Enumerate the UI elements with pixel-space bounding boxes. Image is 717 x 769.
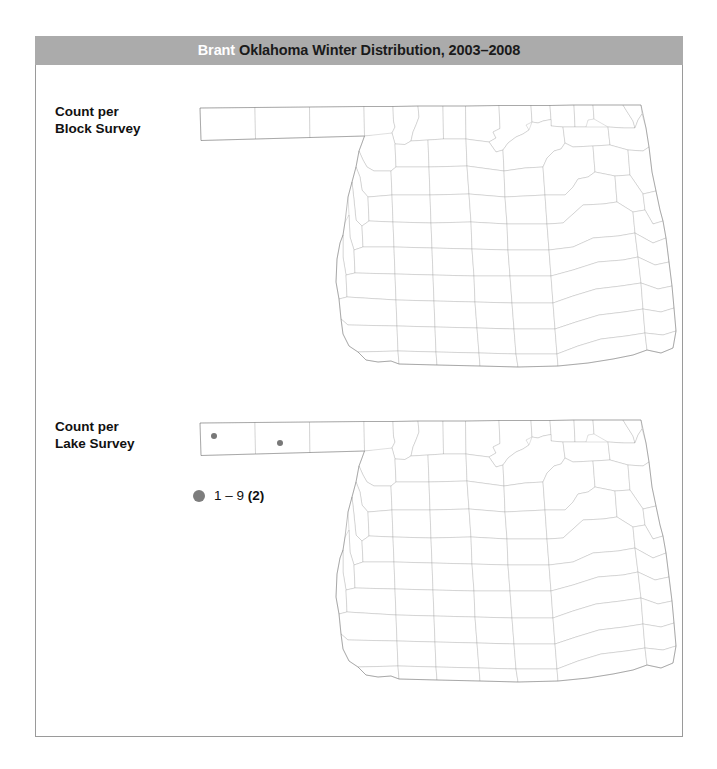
lake-survey-label-line1: Count per xyxy=(55,418,135,435)
legend-count: (2) xyxy=(248,488,265,503)
title-description: Oklahoma Winter Distribution, 2003–2008 xyxy=(239,42,520,58)
lake-survey-label: Count per Lake Survey xyxy=(55,418,135,452)
oklahoma-county-map-lake xyxy=(193,412,678,684)
observation-point xyxy=(211,433,217,439)
legend-entry: 1 – 9 (2) xyxy=(214,489,264,503)
species-name: Brant xyxy=(198,42,235,58)
figure-page: Brant Oklahoma Winter Distribution, 2003… xyxy=(0,0,717,769)
map-legend: 1 – 9 (2) xyxy=(193,489,264,503)
figure-title-bar: Brant Oklahoma Winter Distribution, 2003… xyxy=(35,36,683,65)
block-survey-label: Count per Block Survey xyxy=(55,103,141,137)
block-survey-label-line2: Block Survey xyxy=(55,120,141,137)
block-survey-label-line1: Count per xyxy=(55,103,141,120)
oklahoma-county-map-block xyxy=(193,97,678,369)
legend-range: 1 – 9 xyxy=(214,488,248,503)
lake-survey-map xyxy=(193,412,678,684)
county-boundaries-block xyxy=(200,105,676,367)
block-survey-map xyxy=(193,97,678,369)
county-boundaries-lake xyxy=(200,420,676,682)
legend-dot-icon xyxy=(193,490,205,502)
lake-survey-label-line2: Lake Survey xyxy=(55,435,135,452)
figure-title: Brant Oklahoma Winter Distribution, 2003… xyxy=(198,43,521,58)
observation-point xyxy=(277,440,283,446)
